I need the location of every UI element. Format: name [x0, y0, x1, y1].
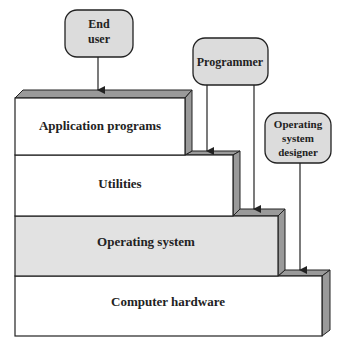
svg-text:End: End [88, 17, 110, 31]
os-layer-diagram: Computer hardware Operating system Utili… [0, 0, 343, 347]
svg-text:user: user [88, 32, 111, 46]
layer-operating-system: Operating system [15, 209, 285, 276]
layer-application-programs: Application programs [15, 90, 192, 155]
layer-utilities: Utilities [15, 151, 240, 216]
svg-text:system: system [282, 132, 314, 144]
layer-label: Computer hardware [111, 294, 225, 309]
layer-computer-hardware: Computer hardware [15, 270, 330, 336]
svg-text:Operating: Operating [274, 118, 323, 130]
svg-text:Programmer: Programmer [197, 55, 264, 69]
layer-label: Operating system [97, 234, 195, 249]
layer-label: Utilities [98, 176, 141, 191]
layer-label: Application programs [39, 118, 161, 133]
actor-end-user: End user [65, 10, 133, 90]
svg-text:designer: designer [278, 146, 318, 158]
